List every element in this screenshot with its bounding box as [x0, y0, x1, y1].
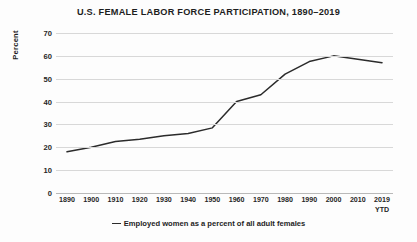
chart-container: U.S. FEMALE LABOR FORCE PARTICIPATION, 1… — [0, 0, 417, 242]
gridline — [56, 124, 393, 125]
legend-label: Employed women as a percent of all adult… — [124, 219, 305, 228]
y-axis-tick-label: 30 — [18, 120, 52, 129]
y-axis-ticks: 010203040506070 — [0, 33, 52, 193]
chart-legend: Employed women as a percent of all adult… — [0, 219, 417, 228]
gridline — [56, 33, 393, 34]
y-axis-tick-label: 70 — [18, 29, 52, 38]
y-axis-tick-label: 20 — [18, 143, 52, 152]
gridline — [56, 56, 393, 57]
x-axis-tick-label-line: YTD — [362, 206, 402, 216]
gridline — [56, 147, 393, 148]
data-line — [67, 56, 382, 152]
series-line-employed-women — [56, 33, 393, 193]
plot-area — [56, 33, 393, 193]
x-axis-tick-label: 2019YTD — [362, 196, 402, 215]
x-axis-ticks: 1890190019101920193019401950196019701980… — [56, 196, 393, 220]
y-axis-tick-label: 40 — [18, 97, 52, 106]
gridline — [56, 102, 393, 103]
chart-title: U.S. FEMALE LABOR FORCE PARTICIPATION, 1… — [0, 7, 417, 17]
y-axis-tick-label: 10 — [18, 166, 52, 175]
y-axis-tick-label: 60 — [18, 51, 52, 60]
legend-line-marker — [112, 223, 121, 225]
gridline — [56, 170, 393, 171]
gridline — [56, 79, 393, 80]
y-axis-tick-label: 50 — [18, 74, 52, 83]
x-axis-tick-label-line: 2019 — [362, 196, 402, 206]
x-axis-line — [56, 193, 393, 194]
